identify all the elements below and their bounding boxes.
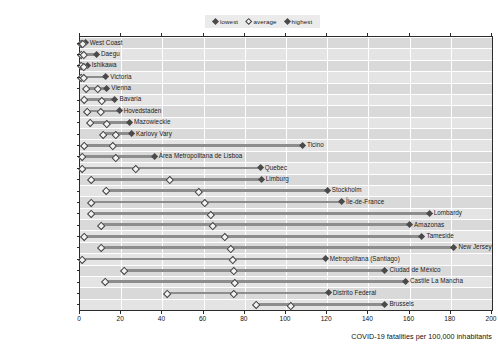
legend-item-lowest: lowest	[213, 18, 238, 25]
range-bar	[83, 235, 422, 238]
y-axis-tick	[77, 43, 80, 44]
data-row[interactable]: Vienna	[80, 83, 492, 94]
x-axis-tick-top	[161, 33, 162, 36]
data-row[interactable]: Distrito Federal	[80, 287, 492, 298]
region-label: Quebec	[265, 164, 287, 171]
y-axis-tick	[77, 100, 80, 101]
highest-marker	[325, 289, 332, 296]
x-axis-tick	[203, 311, 204, 314]
highest-marker	[111, 96, 118, 103]
range-bar	[101, 223, 410, 226]
highest-marker	[115, 107, 122, 114]
data-row[interactable]: Stockholm	[80, 185, 492, 196]
chart-container: lowest average highest West CoastDaeguIs…	[0, 0, 498, 354]
data-row[interactable]: Castile La Mancha	[80, 276, 492, 287]
highest-marker	[257, 164, 264, 171]
highest-marker	[258, 176, 265, 183]
lowest-marker	[100, 278, 109, 287]
data-row[interactable]: New Jersey	[80, 242, 492, 253]
region-label: Daegu	[101, 50, 120, 57]
x-axis-tick-top	[120, 33, 121, 36]
data-row[interactable]: Amazonas	[80, 219, 492, 230]
x-axis-tick-top	[203, 33, 204, 36]
y-axis-tick	[77, 111, 80, 112]
data-row[interactable]: Île-de-France	[80, 196, 492, 207]
x-axis-tick-top	[450, 33, 451, 36]
data-row[interactable]: Tameside	[80, 230, 492, 241]
x-axis-title: COVID-19 fatalities per 100,000 inhabita…	[0, 332, 492, 341]
data-row[interactable]: Daegu	[80, 48, 492, 59]
x-axis-tick-top	[491, 33, 492, 36]
y-axis-tick	[77, 225, 80, 226]
data-row[interactable]: Quebec	[80, 162, 492, 173]
y-axis-tick	[77, 236, 80, 237]
data-row[interactable]: Karlovy Vary	[80, 128, 492, 139]
region-label: Lombardy	[434, 209, 462, 216]
highest-marker	[402, 278, 409, 285]
data-row[interactable]: Bavaria	[80, 94, 492, 105]
highest-marker	[299, 141, 306, 148]
range-bar	[81, 167, 260, 170]
y-axis-tick	[77, 247, 80, 248]
region-label: Tameside	[426, 232, 453, 239]
x-axis-tick	[450, 311, 451, 314]
data-row[interactable]: Mazowieckie	[80, 117, 492, 128]
y-axis-tick	[77, 304, 80, 305]
data-row[interactable]: Área Metropolitana de Lisboa	[80, 151, 492, 162]
region-label: Castile La Mancha	[410, 277, 463, 284]
x-axis-tick	[244, 311, 245, 314]
average-marker	[166, 176, 174, 184]
legend-label-highest: highest	[292, 18, 313, 25]
region-label: Mazowieckie	[134, 118, 171, 125]
data-row[interactable]: Metropolitana (Santiago)	[80, 253, 492, 264]
region-label: Área Metropolitana de Lisboa	[159, 152, 243, 159]
region-label: Victoria	[110, 73, 131, 80]
data-row[interactable]: Victoria	[80, 71, 492, 82]
region-label: Stockholm	[332, 186, 362, 193]
x-axis-tick	[491, 311, 492, 314]
data-row[interactable]: Hovedstaden	[80, 105, 492, 116]
region-label: Île-de-France	[346, 198, 384, 205]
y-axis-tick	[77, 282, 80, 283]
data-row[interactable]: Limburg	[80, 174, 492, 185]
y-axis-tick	[77, 179, 80, 180]
highest-marker	[450, 244, 457, 251]
x-axis-tick-top	[326, 33, 327, 36]
highest-marker	[418, 232, 425, 239]
x-axis-tick	[161, 311, 162, 314]
region-label: Distrito Federal	[333, 289, 377, 296]
y-axis-tick	[77, 202, 80, 203]
legend-label-average: average	[254, 18, 277, 25]
range-bar	[104, 280, 406, 283]
legend-item-highest: highest	[285, 18, 313, 25]
data-row[interactable]: Ticino	[80, 139, 492, 150]
data-row[interactable]: West Coast	[80, 37, 492, 48]
region-label: Bavaria	[120, 95, 142, 102]
y-axis-tick	[77, 122, 80, 123]
data-row[interactable]: Brussels	[80, 299, 492, 310]
range-bar	[105, 189, 327, 192]
region-label: Ishikawa	[92, 61, 117, 68]
x-axis-tick-label: 80	[240, 315, 247, 322]
data-row[interactable]: Ishikawa	[80, 60, 492, 71]
region-label: Ticino	[307, 141, 324, 148]
x-axis-tick-top	[285, 33, 286, 36]
range-bar	[101, 246, 454, 249]
x-axis-tick-label: 180	[444, 315, 455, 322]
region-label: New Jersey	[458, 243, 491, 250]
highest-marker	[425, 210, 432, 217]
highest-marker	[381, 301, 388, 308]
y-axis-tick	[77, 259, 80, 260]
data-row[interactable]: Lombardy	[80, 208, 492, 219]
region-label: Amazonas	[414, 221, 444, 228]
x-axis-tick-top	[79, 33, 80, 36]
data-row[interactable]: Ciudad de México	[80, 265, 492, 276]
highest-marker	[406, 221, 413, 228]
y-axis-tick	[77, 168, 80, 169]
x-axis-tick-label: 20	[117, 315, 124, 322]
y-axis-tick	[77, 77, 80, 78]
average-marker-icon	[245, 18, 253, 26]
range-bar	[90, 178, 261, 181]
region-label: Brussels	[389, 300, 414, 307]
region-label: West Coast	[90, 39, 123, 46]
